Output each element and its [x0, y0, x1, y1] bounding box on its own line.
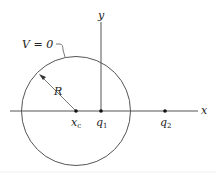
radius-arrowhead-icon [39, 74, 46, 80]
y-axis-label: y [97, 9, 105, 22]
charge-q1-point [99, 109, 103, 113]
center-point [74, 109, 78, 113]
potential-label: V = 0 [22, 38, 53, 51]
image-charge-diagram: x y V = 0 R xc q1 q2 [0, 0, 216, 174]
charge-q2-point [163, 109, 167, 113]
charge-q1-label: q1 [96, 116, 108, 130]
center-label: xc [71, 116, 81, 130]
radius-label: R [53, 85, 62, 98]
charge-q2-label: q2 [160, 116, 172, 130]
x-axis-label: x [201, 104, 208, 117]
potential-leader-line [56, 44, 65, 57]
